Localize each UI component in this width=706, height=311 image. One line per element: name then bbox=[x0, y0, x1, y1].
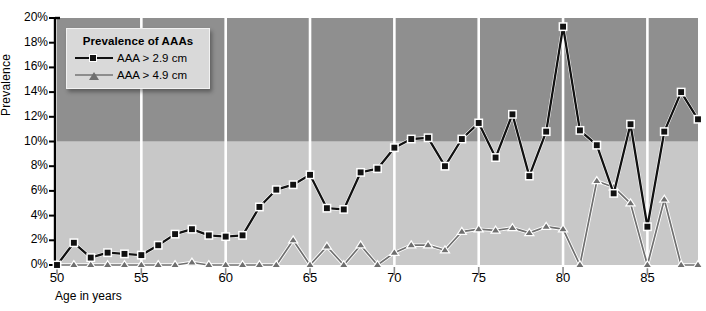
data-point-marker bbox=[424, 134, 431, 141]
data-point-marker bbox=[340, 206, 347, 213]
legend-label-0: AAA > 2.9 cm bbox=[117, 52, 187, 64]
x-axis-title: Age in years bbox=[55, 289, 122, 303]
data-point-marker bbox=[188, 225, 195, 232]
data-point-marker bbox=[306, 171, 313, 178]
data-point-marker bbox=[559, 23, 566, 30]
data-point-marker bbox=[627, 121, 634, 128]
data-point-marker bbox=[391, 144, 398, 151]
data-point-marker bbox=[374, 165, 381, 172]
data-point-marker bbox=[104, 249, 111, 256]
data-point-marker bbox=[205, 232, 212, 239]
data-point-marker bbox=[644, 223, 651, 230]
data-point-marker bbox=[138, 251, 145, 258]
data-point-marker bbox=[273, 186, 280, 193]
data-point-marker bbox=[87, 254, 94, 261]
chart-container: Prevalence 0%2%4%6%8%10%12%14%16%18%20% … bbox=[0, 0, 706, 311]
data-point-marker bbox=[661, 128, 668, 135]
data-point-marker bbox=[323, 204, 330, 211]
data-point-marker bbox=[677, 88, 684, 95]
data-point-marker bbox=[70, 239, 77, 246]
legend-item-aaa-2-9: AAA > 2.9 cm bbox=[67, 52, 209, 64]
data-point-marker bbox=[357, 169, 364, 176]
data-point-marker bbox=[256, 203, 263, 210]
data-point-marker bbox=[155, 242, 162, 249]
triangle-marker-icon bbox=[75, 69, 113, 81]
legend-item-aaa-4-9: AAA > 4.9 cm bbox=[67, 69, 209, 81]
data-point-marker bbox=[576, 127, 583, 134]
data-point-marker bbox=[526, 172, 533, 179]
data-point-marker bbox=[441, 163, 448, 170]
chart-legend: Prevalence of AAAs AAA > 2.9 cm AAA > 4.… bbox=[66, 28, 210, 89]
data-point-marker bbox=[593, 142, 600, 149]
legend-label-1: AAA > 4.9 cm bbox=[117, 69, 187, 81]
data-point-marker bbox=[509, 111, 516, 118]
data-point-marker bbox=[458, 135, 465, 142]
data-point-marker bbox=[542, 128, 549, 135]
data-point-marker bbox=[475, 119, 482, 126]
data-point-marker bbox=[121, 250, 128, 257]
legend-title: Prevalence of AAAs bbox=[67, 35, 209, 47]
square-marker-icon bbox=[75, 52, 113, 64]
data-point-marker bbox=[53, 261, 60, 268]
data-point-marker bbox=[171, 230, 178, 237]
data-point-marker bbox=[239, 232, 246, 239]
data-point-marker bbox=[289, 181, 296, 188]
data-point-marker bbox=[492, 154, 499, 161]
data-point-marker bbox=[222, 233, 229, 240]
data-point-marker bbox=[408, 135, 415, 142]
data-point-marker bbox=[610, 190, 617, 197]
data-point-marker bbox=[694, 116, 701, 123]
